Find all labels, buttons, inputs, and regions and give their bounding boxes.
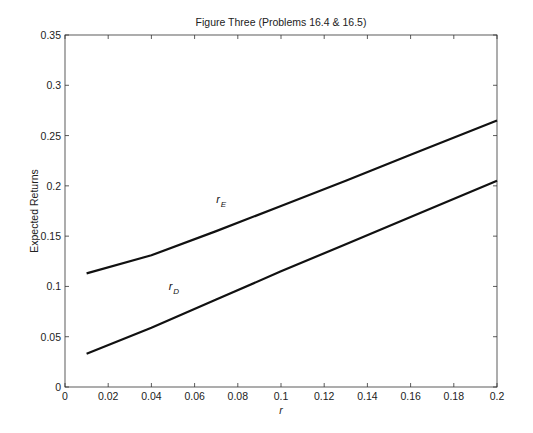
y-tick-label: 0.35 [41, 29, 62, 41]
y-tick-label: 0.2 [46, 180, 61, 192]
x-axis-label: r [279, 404, 283, 416]
x-tick-label: 0.16 [400, 390, 421, 402]
x-tick-label: 0.02 [98, 390, 119, 402]
chart-title: Figure Three (Problems 16.4 & 16.5) [196, 16, 367, 28]
y-tick-label: 0.3 [46, 79, 61, 91]
y-tick-label: 0.25 [41, 130, 62, 142]
x-tick-label: 0 [62, 390, 68, 402]
y-tick-label: 0.15 [41, 230, 62, 242]
x-axis-ticks: 00.020.040.060.080.10.120.140.160.180.2 [62, 35, 504, 402]
series-annotation: rE [216, 193, 227, 209]
y-axis-label: Expected Returns [28, 169, 40, 252]
y-tick-label: 0 [55, 381, 61, 393]
series-line-r-d [87, 181, 497, 354]
line-chart: Figure Three (Problems 16.4 & 16.5) 00.0… [0, 0, 533, 433]
y-tick-label: 0.1 [46, 280, 61, 292]
x-tick-label: 0.04 [141, 390, 162, 402]
x-tick-label: 0.2 [490, 390, 505, 402]
x-tick-label: 0.18 [444, 390, 465, 402]
x-tick-label: 0.1 [274, 390, 289, 402]
plot-area [65, 35, 497, 387]
x-tick-label: 0.14 [357, 390, 378, 402]
series-line-r-e [87, 120, 497, 273]
x-tick-label: 0.06 [184, 390, 205, 402]
y-tick-label: 0.05 [41, 331, 62, 343]
series-annotation: rD [169, 280, 180, 296]
series-group [87, 120, 497, 353]
x-tick-label: 0.12 [314, 390, 335, 402]
x-tick-label: 0.08 [228, 390, 249, 402]
